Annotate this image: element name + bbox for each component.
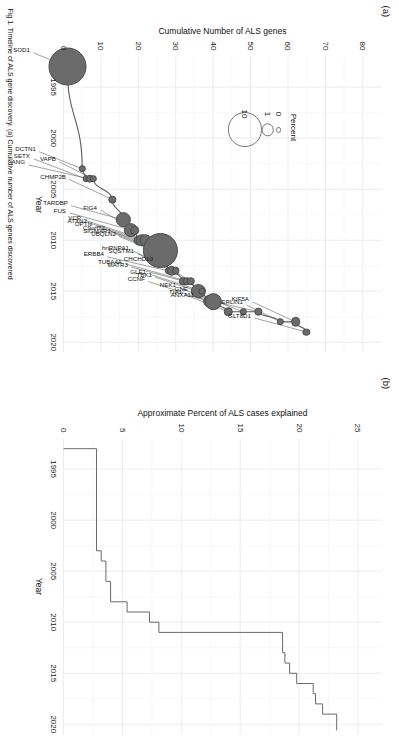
panel-b-step-line: [63, 438, 381, 734]
gene-bubble: [290, 317, 299, 326]
x-tick-label: 2020: [48, 715, 57, 733]
panel-b-plot-area: [63, 438, 381, 734]
y-tick-label: 5: [117, 428, 126, 432]
gene-bubble: [277, 318, 284, 325]
y-tick-label: 30: [171, 41, 180, 50]
y-tick-label: 60: [283, 41, 292, 50]
gene-bubble: [171, 267, 179, 275]
legend-value: 1: [262, 111, 271, 115]
legend-title: Percent: [288, 113, 297, 141]
x-tick-label: 2000: [48, 129, 57, 147]
gene-label: GLT8D1: [228, 311, 251, 318]
x-tick-label: 1995: [48, 78, 57, 96]
panel-b-x-axis-title: Year: [33, 577, 43, 594]
y-tick-label: 50: [246, 41, 255, 50]
gene-label: KIF5A: [231, 294, 248, 301]
figure-root: (a) SOD1DCTN1SETXANGVAPBCHMP2BTARDBPFUSF…: [0, 0, 399, 751]
gene-label: GLE1: [130, 267, 146, 274]
figure-caption: Fig 1. Timeline of ALS gene discovery. (…: [6, 8, 13, 279]
figure-stage: (a) SOD1DCTN1SETXANGVAPBCHMP2BTARDBPFUSF…: [0, 0, 399, 751]
y-tick-label: 0: [59, 428, 68, 432]
gene-label: SOD1: [12, 45, 29, 52]
y-tick-label: 10: [96, 41, 105, 50]
gene-label: CCNF: [127, 274, 144, 281]
gene-label: TUBA4A: [98, 257, 122, 264]
gene-bubble: [78, 165, 85, 172]
panel-a-tag: (a): [380, 5, 391, 17]
y-tick-label: 0: [59, 46, 68, 50]
x-tick-label: 2010: [48, 231, 57, 249]
panel-b-y-axis-title: Approximate Percent of ALS cases explain…: [137, 407, 307, 417]
legend-value: 0: [274, 111, 283, 115]
x-tick-label: 2005: [48, 180, 57, 198]
x-tick-label: 2015: [48, 664, 57, 682]
gene-label: FUS: [53, 206, 65, 213]
gene-label: VAPB: [39, 154, 55, 161]
x-tick-label: 2005: [48, 562, 57, 580]
legend-value: 10: [240, 109, 249, 118]
gene-label: hnRNPA1: [102, 243, 129, 250]
gene-label: VCP: [68, 213, 81, 220]
gene-bubble: [198, 287, 206, 295]
gene-label: CHMP2B: [39, 172, 65, 179]
panel-a-y-axis-title: Cumulative Number of ALS genes: [158, 25, 286, 35]
y-tick-label: 20: [294, 423, 303, 432]
x-tick-label: 2000: [48, 511, 57, 529]
panel-a-plot-area: SOD1DCTN1SETXANGVAPBCHMP2BTARDBPFUSFIG4O…: [63, 56, 381, 352]
x-tick-label: 2015: [48, 282, 57, 300]
panel-b: (b) 199520002005201020152020 0510152025 …: [0, 372, 399, 751]
y-tick-label: 25: [353, 423, 362, 432]
gene-label: ANXA11: [170, 290, 193, 297]
gene-label: ERBB4: [83, 249, 103, 256]
y-tick-label: 10: [176, 423, 185, 432]
gene-label: C9orf72: [83, 223, 105, 230]
x-tick-label: 1995: [48, 460, 57, 478]
legend-bubble: [276, 127, 281, 132]
gene-bubble: [90, 175, 97, 182]
panel-b-tag: (b): [380, 377, 391, 389]
y-tick-label: 20: [133, 41, 142, 50]
panel-a-trend-curve: [63, 56, 381, 352]
panel-a-x-axis-title: Year: [33, 195, 43, 212]
panel-a: (a) SOD1DCTN1SETXANGVAPBCHMP2BTARDBPFUSF…: [0, 0, 399, 372]
y-tick-label: 40: [208, 41, 217, 50]
y-tick-label: 15: [235, 423, 244, 432]
y-tick-label: 80: [358, 41, 367, 50]
gene-label: CHCHD10: [123, 254, 152, 261]
gene-bubble: [108, 195, 116, 203]
gene-label: FIG4: [83, 203, 97, 210]
gene-bubble: [254, 307, 262, 315]
gene-label: DCTN1: [15, 144, 36, 151]
gene-label: TARDBP: [43, 198, 68, 205]
x-tick-label: 2020: [48, 333, 57, 351]
gene-bubble: [302, 328, 310, 336]
y-tick-label: 70: [320, 41, 329, 50]
gene-bubble: [204, 293, 221, 310]
legend-bubble: [261, 123, 273, 135]
gene-bubble: [129, 225, 138, 234]
gene-label: NEK1: [159, 280, 175, 287]
gene-bubble: [143, 232, 178, 267]
x-tick-label: 2010: [48, 613, 57, 631]
